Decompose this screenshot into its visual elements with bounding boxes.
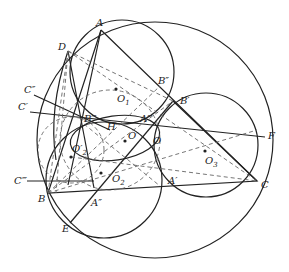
label-c3: C‴ xyxy=(14,175,28,186)
label-e: E xyxy=(61,223,70,234)
label-h: H xyxy=(106,121,116,132)
line-c2 xyxy=(34,95,110,130)
circle-upper xyxy=(70,20,174,124)
label-c: C xyxy=(261,179,269,190)
dot-o2p xyxy=(69,155,72,158)
label-a1: A′ xyxy=(167,175,178,186)
dot-o-prime xyxy=(123,139,126,142)
label-c1: C′ xyxy=(18,101,29,112)
label-c2: C″ xyxy=(24,84,36,95)
label-a3: A‴ xyxy=(139,113,153,124)
dot-o2 xyxy=(99,171,102,174)
line-b1-c xyxy=(173,101,257,181)
dash-b3-a1 xyxy=(84,124,160,186)
label-b1: B′ xyxy=(179,95,190,106)
label-a: A xyxy=(95,17,103,28)
label-b: B xyxy=(37,193,45,204)
label-f: F xyxy=(267,130,276,141)
geometry-diagram: ADC″C′B″B′B‴O1HA‴O′OO′2O2C‴BA″A′CO3FE xyxy=(0,0,289,272)
label-o-prime: O′ xyxy=(128,130,139,141)
label-o2: O2 xyxy=(112,173,125,187)
diagram-canvas: ADC″C′B″B′B‴O1HA‴O′OO′2O2C‴BA″A′CO3FE xyxy=(0,0,289,272)
label-a2: A″ xyxy=(90,197,102,208)
label-b2: B″ xyxy=(157,75,169,86)
label-d: D xyxy=(57,41,66,52)
label-o: O xyxy=(153,135,161,146)
dash-o2p-c xyxy=(71,157,257,181)
label-b3: B‴ xyxy=(83,113,97,124)
dot-o1 xyxy=(114,87,117,90)
label-o1: O1 xyxy=(117,93,130,107)
label-o3: O3 xyxy=(205,155,218,169)
dot-o3 xyxy=(203,149,206,152)
